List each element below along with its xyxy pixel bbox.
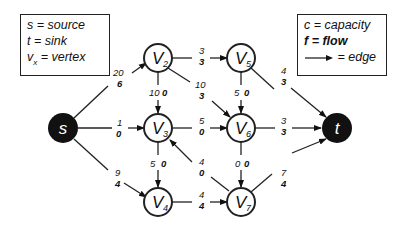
node-v7: V 7 xyxy=(227,188,255,216)
svg-text:s: s xyxy=(59,119,68,138)
svg-text:2: 2 xyxy=(162,59,168,69)
svg-text:4: 4 xyxy=(163,203,168,213)
label-s-v3-capacity: 1 xyxy=(117,117,122,128)
label-v5-t-capacity: 4 xyxy=(281,65,286,76)
node-v5: V 5 xyxy=(227,44,255,72)
node-s: s xyxy=(48,113,78,143)
flow-network-graph: 20 6 1 0 9 4 10 0 3 3 10 3 5 0 5 0 4 0 4… xyxy=(0,0,393,228)
edge-v7-t xyxy=(251,174,272,192)
label-v2-v5-flow: 3 xyxy=(199,56,205,67)
node-v6: V 6 xyxy=(227,114,255,142)
node-v4: V 4 xyxy=(144,188,172,216)
label-v7-t-flow: 4 xyxy=(280,178,287,189)
label-v2-v6-flow: 3 xyxy=(199,90,205,101)
label-v4-v7-flow: 4 xyxy=(198,200,205,211)
edge-v2-v6 xyxy=(168,68,190,82)
label-v5-v6-flow: 0 xyxy=(244,87,250,98)
svg-text:3: 3 xyxy=(163,129,168,139)
label-s-v4-capacity: 9 xyxy=(115,167,121,178)
edge-v7-v3 xyxy=(211,177,229,191)
label-v2-v3-flow: 0 xyxy=(162,87,168,98)
label-v3-v6-flow: 0 xyxy=(199,126,205,137)
node-v2: V 2 xyxy=(144,44,172,72)
label-v6-v7-capacity: 0 xyxy=(235,158,241,169)
label-s-v3-flow: 0 xyxy=(116,128,122,139)
label-v3-v6-capacity: 5 xyxy=(199,115,205,126)
label-v2-v6-capacity: 10 xyxy=(195,79,206,90)
node-v3: V 3 xyxy=(144,114,172,142)
edge-s-v2 xyxy=(74,86,108,118)
label-s-v2-capacity: 20 xyxy=(112,67,124,78)
label-v5-t-flow: 3 xyxy=(281,76,287,87)
label-v3-v4-flow: 0 xyxy=(161,158,167,169)
label-v6-v7-flow: 0 xyxy=(244,158,250,169)
node-t: t xyxy=(322,113,352,143)
label-v2-v3-capacity: 10 xyxy=(149,87,160,98)
label-v5-v6-capacity: 5 xyxy=(234,87,240,98)
label-v7-v3-flow: 0 xyxy=(199,167,205,178)
label-v4-v7-capacity: 4 xyxy=(199,189,204,200)
edge-v5-t xyxy=(251,68,274,89)
label-v7-t-capacity: 7 xyxy=(281,167,287,178)
svg-text:6: 6 xyxy=(246,129,251,139)
label-v6-t-flow: 3 xyxy=(281,126,287,137)
label-v3-v4-capacity: 5 xyxy=(150,158,156,169)
edge-s-v4 xyxy=(74,139,108,170)
label-v2-v5-capacity: 3 xyxy=(199,45,205,56)
label-s-v2-flow: 6 xyxy=(117,78,123,89)
label-v7-v3-capacity: 4 xyxy=(199,156,204,167)
label-v6-t-capacity: 3 xyxy=(281,115,287,126)
label-s-v4-flow: 4 xyxy=(114,178,121,189)
